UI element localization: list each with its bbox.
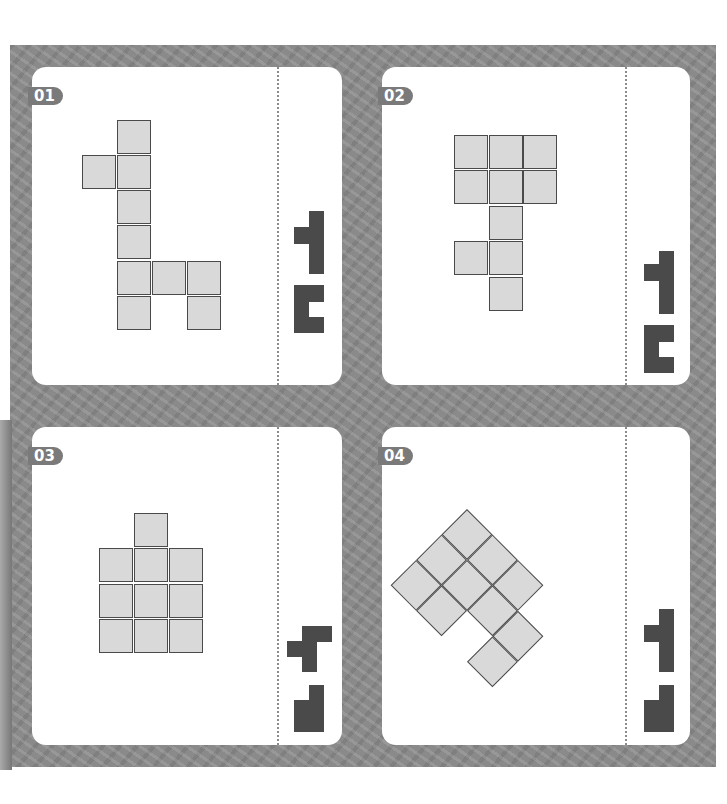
dotted-divider xyxy=(277,67,279,385)
puzzle-card-03: 03 xyxy=(32,427,342,745)
puzzle-card-02: 02 xyxy=(382,67,690,385)
puzzle-card-01: 01 xyxy=(32,67,342,385)
puzzle-number-badge: 01 xyxy=(28,87,63,105)
puzzle-number-badge: 02 xyxy=(378,87,413,105)
puzzle-card-04: 04 xyxy=(382,427,690,745)
puzzle-number-badge: 03 xyxy=(28,447,63,465)
dotted-divider xyxy=(625,67,627,385)
dotted-divider xyxy=(277,427,279,745)
dotted-divider xyxy=(625,427,627,745)
page-edge-shadow xyxy=(0,420,12,770)
puzzle-number-badge: 04 xyxy=(378,447,413,465)
